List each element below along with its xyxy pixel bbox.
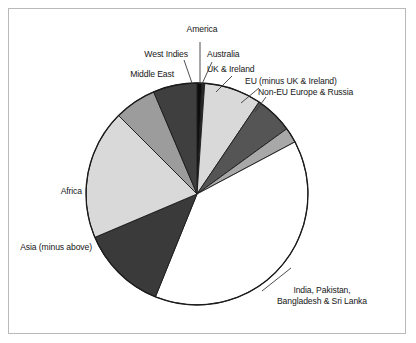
pie-chart: America Australia West Indies UK & Irela… [0, 0, 416, 343]
label-america: America [174, 24, 230, 35]
label-middle-east: Middle East [96, 69, 174, 80]
label-india: India, Pakistan, Bangladesh & Sri Lanka [266, 285, 378, 306]
label-west-indies: West Indies [118, 49, 188, 60]
pie-slices [86, 83, 308, 305]
label-australia: Australia [207, 49, 240, 60]
label-africa: Africa [16, 186, 82, 197]
label-india-line2: Bangladesh & Sri Lanka [277, 296, 367, 306]
label-india-line1: India, Pakistan, [293, 285, 350, 295]
label-non-eu: Non-EU Europe & Russia [258, 87, 353, 98]
label-uk-ireland: UK & Ireland [207, 64, 255, 75]
label-eu: EU (minus UK & Ireland) [245, 76, 337, 87]
leader-west-indies [184, 60, 193, 86]
label-asia: Asia (minus above) [8, 242, 92, 253]
